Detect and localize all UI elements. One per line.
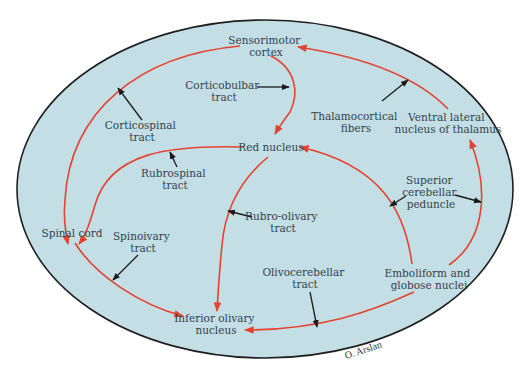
spinal-cord-label: Spinal cord xyxy=(42,227,103,239)
ventral-lateral-thalamus-label: Ventral lateral nucleus of thalamus xyxy=(395,111,502,135)
neural-pathway-diagram: Sensorimotor cortex Red nucleus Spinal c… xyxy=(0,0,531,375)
red-nucleus-label: Red nucleus xyxy=(238,141,303,153)
superior-cerebellar-peduncle-label: Superior cerebellar peduncle xyxy=(402,174,460,210)
emboliform-globose-nuclei-label: Emboliform and globose nuclei xyxy=(385,267,474,291)
